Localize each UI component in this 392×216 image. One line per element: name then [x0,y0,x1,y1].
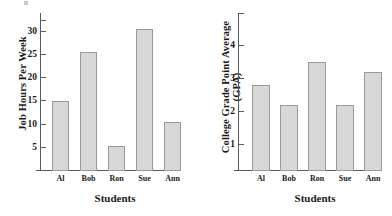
x-tick-label-ron: Ron [302,174,332,183]
bar-al [252,85,270,171]
chart-panel-gpa: College Grade Point Average (GPA) 4 3 2 … [196,0,392,216]
x-tick-label-ann: Ann [158,174,187,183]
x-axis-title-students-left: Students [60,192,170,204]
plot-area-job-hours: 30 25 20 15 10 5 Al Bob Ron Sue Ann Stud… [0,0,196,216]
x-tick-label-sue: Sue [130,174,159,183]
bar-ron [108,146,125,171]
y-tick-15 [41,100,46,101]
figure-two-bar-charts: Job Hours Per Week 30 25 20 15 10 5 [0,0,392,216]
x-axis-title-students-right: Students [260,192,370,204]
bar-ron [308,62,326,171]
x-tick-label-al: Al [246,174,276,183]
y-tick-label-5: 5 [17,143,37,152]
y-tick-top [41,20,46,21]
y-tick-label-15: 15 [17,96,37,105]
plot-area-gpa: 4 3 2 1 Al Bob Ron Sue Ann Students [196,0,392,216]
x-tick-label-bob: Bob [74,174,103,183]
y-tick-label-4: 4 [217,41,235,50]
y-tick-25 [41,54,46,55]
bar-bob [280,105,298,171]
y-tick-5 [239,13,244,14]
y-axis-line [238,13,239,171]
y-tick-4 [239,45,244,46]
y-tick-30 [41,31,46,32]
x-tick-label-ann: Ann [358,174,388,183]
y-tick-20 [41,77,46,78]
y-tick-label-1: 1 [217,140,235,149]
bar-al [52,101,69,171]
y-tick-10 [41,124,46,125]
bar-sue [136,29,153,171]
y-tick-label-10: 10 [17,120,37,129]
y-tick-5 [41,147,46,148]
y-tick-label-3: 3 [217,74,235,83]
y-tick-label-20: 20 [17,73,37,82]
x-tick-label-ron: Ron [102,174,131,183]
x-tick-label-al: Al [46,174,75,183]
x-tick-label-bob: Bob [274,174,304,183]
bar-ann [164,122,181,171]
y-tick-3 [239,78,244,79]
bar-sue [336,105,354,171]
y-tick-label-2: 2 [217,107,235,116]
bar-bob [80,52,97,171]
y-tick-label-25: 25 [17,50,37,59]
y-tick-label-30: 30 [17,27,37,36]
bar-ann [364,72,382,171]
y-tick-2 [239,111,244,112]
chart-panel-job-hours: Job Hours Per Week 30 25 20 15 10 5 [0,0,196,216]
y-tick-1 [239,144,244,145]
x-tick-label-sue: Sue [330,174,360,183]
